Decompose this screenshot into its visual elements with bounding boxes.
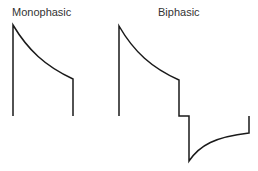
waveform-diagram (0, 0, 258, 171)
biphasic-waveform (119, 26, 249, 161)
monophasic-waveform (13, 25, 73, 116)
